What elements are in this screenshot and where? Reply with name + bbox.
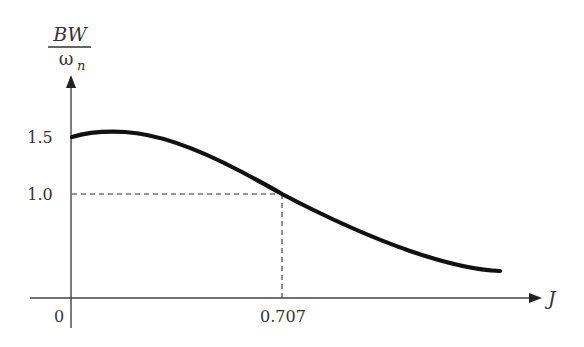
chart: BW ω n J 1.5 1.0 0 0.707 [0,0,584,347]
x-axis-arrow-icon [529,293,542,303]
x-tick-0: 0 [54,307,64,326]
x-tick-0.707: 0.707 [260,307,306,326]
x-axis-label: J [544,287,557,309]
y-label-numerator: BW [52,23,88,45]
bandwidth-curve [72,132,500,271]
y-tick-1.0: 1.0 [27,185,52,204]
y-label-subscript: n [77,58,85,73]
y-label-denominator: ω [59,48,74,69]
y-axis-arrow-icon [66,75,76,88]
y-axis-label: BW ω n [48,23,91,73]
y-tick-1.5: 1.5 [27,128,52,147]
